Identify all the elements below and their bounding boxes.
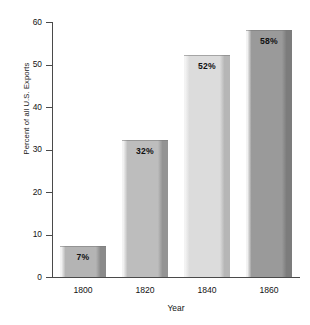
y-tick-mark [46,65,52,66]
y-tick-label: 40 [12,103,42,112]
y-tick-mark [46,277,52,278]
bar: 32% [122,140,168,277]
y-tick-mark [46,192,52,193]
bar: 52% [184,55,230,277]
bar-value-label: 58% [246,36,292,46]
x-tick-label: 1860 [239,285,299,295]
y-tick-label: 10 [12,230,42,239]
x-axis-title: Year [52,303,300,313]
y-tick-label: 60 [12,18,42,27]
bar-value-label: 52% [184,61,230,71]
bar: 58% [246,30,292,278]
x-tick-label: 1820 [115,285,175,295]
x-tick-label: 1840 [177,285,237,295]
x-tick-label: 1800 [53,285,113,295]
y-tick-mark [46,235,52,236]
bar: 7% [60,246,106,277]
bar-value-label: 32% [122,146,168,156]
y-tick-mark [46,22,52,23]
bar-chart: Percent of all U.S. Exports 010203040506… [0,0,310,325]
x-axis-line [52,277,300,278]
y-tick-label: 50 [12,60,42,69]
y-tick-label: 0 [12,273,42,282]
y-axis-line [52,22,53,278]
y-tick-mark [46,107,52,108]
y-tick-label: 20 [12,188,42,197]
y-tick-label: 30 [12,145,42,154]
y-tick-mark [46,150,52,151]
bar-value-label: 7% [60,252,106,262]
